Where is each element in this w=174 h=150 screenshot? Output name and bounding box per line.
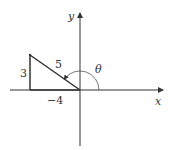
triangle-vertex-dot bbox=[29, 54, 31, 56]
horizontal-side-label: −4 bbox=[47, 94, 63, 107]
y-axis-label: y bbox=[67, 10, 75, 23]
angle-label: θ bbox=[95, 63, 102, 76]
trig-diagram: y x 3 5 −4 θ bbox=[0, 0, 174, 150]
vertical-side-label: 3 bbox=[20, 67, 27, 80]
angle-arc bbox=[64, 71, 99, 90]
hypotenuse-label: 5 bbox=[55, 58, 62, 71]
x-axis-label: x bbox=[155, 95, 162, 108]
